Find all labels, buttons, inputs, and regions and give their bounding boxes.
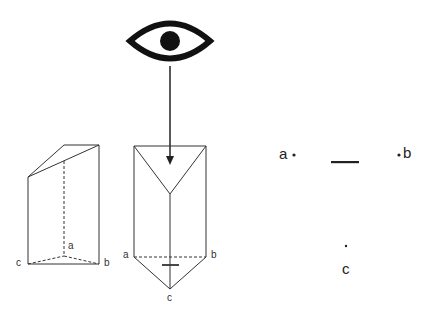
- diagram-canvas: [0, 0, 433, 312]
- top-view: [292, 153, 400, 247]
- left-prism-label-a: a: [68, 240, 74, 251]
- left-prism: [28, 145, 99, 264]
- front-prism-label-a: a: [123, 249, 129, 260]
- top-view-label-b: b: [403, 144, 411, 161]
- left-prism-label-b: b: [104, 257, 110, 268]
- front-prism: [134, 146, 206, 289]
- view-arrow: [166, 66, 174, 165]
- top-view-label-a: a: [279, 145, 287, 162]
- front-prism-label-c: c: [167, 292, 172, 303]
- front-prism-label-b: b: [211, 249, 217, 260]
- eye-icon: [130, 24, 210, 59]
- top-view-label-c: c: [342, 260, 350, 277]
- left-prism-label-c: c: [16, 257, 21, 268]
